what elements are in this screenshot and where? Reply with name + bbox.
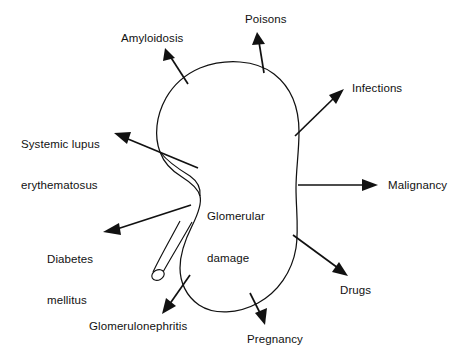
label-diabetes-mellitus: Diabetes mellitus xyxy=(47,226,93,334)
label-systemic-lupus-erythematosus: Systemic lupus erythematosus xyxy=(21,111,100,219)
label-systemic-lupus-erythematosus-line2: erythematosus xyxy=(21,179,100,193)
label-poisons: Poisons xyxy=(245,13,287,27)
label-diabetes-mellitus-line1: Diabetes xyxy=(47,253,93,267)
arrow-infections xyxy=(295,89,344,136)
ureter-inner-wall xyxy=(153,221,180,272)
label-drugs: Drugs xyxy=(340,284,371,298)
label-amyloidosis: Amyloidosis xyxy=(121,32,183,46)
label-infections: Infections xyxy=(352,82,402,96)
arrow-malignancy xyxy=(298,179,378,191)
label-glomerular-damage-line2: damage xyxy=(207,251,265,265)
label-malignancy: Malignancy xyxy=(388,179,447,193)
label-pregnancy: Pregnancy xyxy=(247,333,303,347)
label-glomerular-damage-line1: Glomerular xyxy=(207,209,265,223)
arrow-drugs xyxy=(293,235,348,276)
label-diabetes-mellitus-line2: mellitus xyxy=(47,294,93,308)
label-systemic-lupus-erythematosus-line1: Systemic lupus xyxy=(21,138,100,152)
arrow-amyloidosis xyxy=(163,48,188,84)
label-glomerulonephritis: Glomerulonephritis xyxy=(89,320,187,334)
diagram-canvas: Amyloidosis Poisons Infections Malignanc… xyxy=(0,0,472,361)
label-glomerular-damage: Glomerular damage xyxy=(207,181,265,293)
arrow-diabetes-mellitus xyxy=(103,205,191,235)
arrow-glomerulonephritis xyxy=(162,275,190,314)
